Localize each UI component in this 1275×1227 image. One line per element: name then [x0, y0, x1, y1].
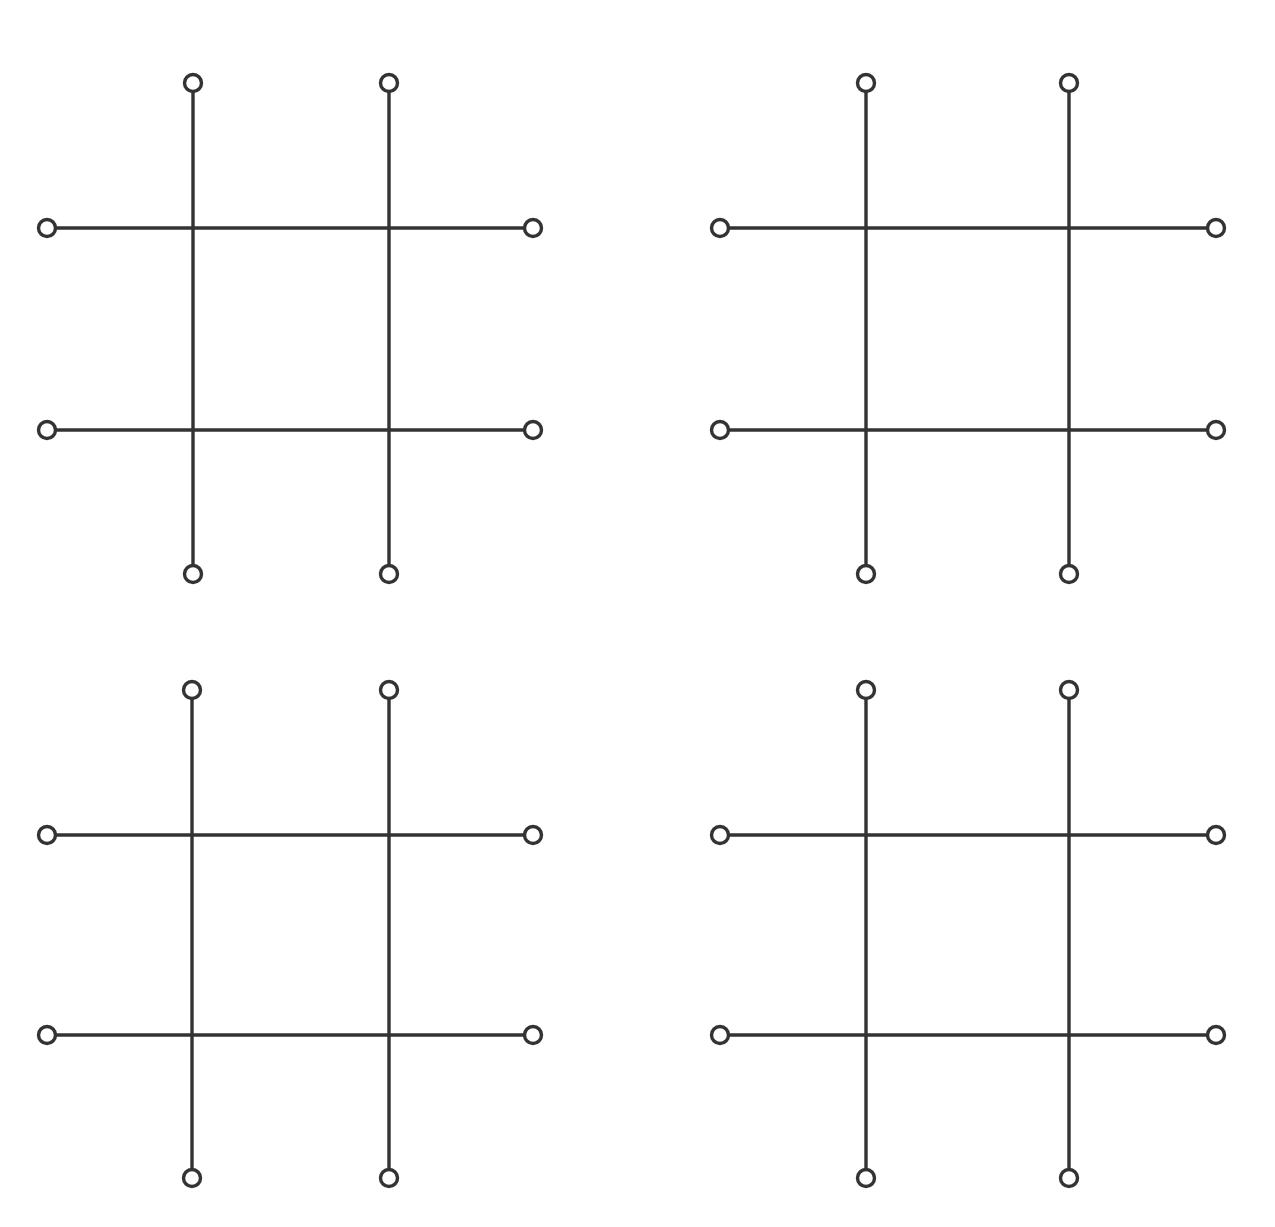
node-marker-top-left-vertical-top: [858, 682, 875, 699]
node-marker-top-left-vertical-bottom: [858, 1170, 875, 1187]
node-marker-lower-horizontal-left: [712, 422, 729, 439]
node-marker-lower-horizontal-left: [39, 422, 56, 439]
node-marker-top-right-vertical-top: [1061, 75, 1078, 92]
node-marker-top-left-vertical-top: [184, 682, 201, 699]
node-marker-top-right-vertical-bottom: [1061, 1170, 1078, 1187]
node-marker-top-left-vertical-bottom: [185, 566, 202, 583]
node-marker-upper-horizontal-left: [39, 827, 56, 844]
node-marker-upper-horizontal-left: [712, 220, 729, 237]
node-marker-top-right-vertical-top: [1061, 682, 1078, 699]
node-marker-upper-horizontal-left: [39, 220, 56, 237]
node-marker-top-right-vertical-bottom: [1061, 566, 1078, 583]
node-marker-upper-horizontal-right: [525, 220, 542, 237]
node-marker-top-right-vertical-top: [381, 75, 398, 92]
node-marker-lower-horizontal-right: [1208, 422, 1225, 439]
node-marker-top-right-vertical-top: [381, 682, 398, 699]
node-marker-lower-horizontal-left: [712, 1027, 729, 1044]
node-marker-top-left-vertical-top: [858, 75, 875, 92]
node-marker-top-right-vertical-bottom: [381, 1170, 398, 1187]
node-marker-lower-horizontal-right: [525, 1027, 542, 1044]
node-marker-lower-horizontal-right: [525, 422, 542, 439]
node-marker-lower-horizontal-right: [1208, 1027, 1225, 1044]
node-marker-lower-horizontal-left: [39, 1027, 56, 1044]
node-marker-top-left-vertical-bottom: [858, 566, 875, 583]
node-marker-upper-horizontal-left: [712, 827, 729, 844]
node-marker-upper-horizontal-right: [1208, 827, 1225, 844]
node-marker-top-right-vertical-bottom: [381, 566, 398, 583]
node-marker-upper-horizontal-right: [525, 827, 542, 844]
figure-canvas: [0, 0, 1275, 1227]
node-marker-top-left-vertical-bottom: [184, 1170, 201, 1187]
node-marker-top-left-vertical-top: [185, 75, 202, 92]
node-marker-upper-horizontal-right: [1208, 220, 1225, 237]
